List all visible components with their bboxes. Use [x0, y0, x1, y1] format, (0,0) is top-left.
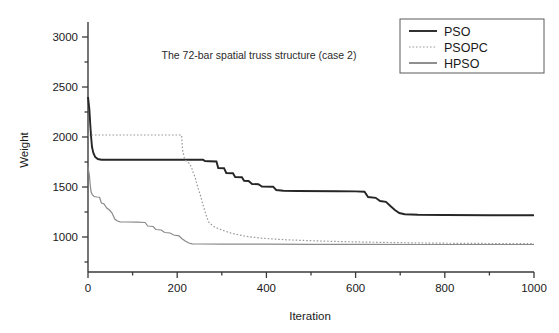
chart-figure: 1000150020002500300002004006008001000 Th…	[0, 0, 559, 333]
y-axis-title: Weight	[18, 131, 30, 167]
legend: PSO PSOPC HPSO	[400, 19, 544, 73]
y-tick-label: 2000	[52, 131, 78, 143]
legend-label-hpso: HPSO	[444, 57, 480, 71]
y-tick-label: 3000	[52, 31, 78, 43]
y-tick-label: 2500	[52, 81, 78, 93]
x-tick-label: 200	[168, 282, 187, 294]
legend-label-pso: PSO	[444, 25, 471, 39]
y-tick-label: 1500	[52, 181, 78, 193]
x-tick-label: 800	[435, 282, 454, 294]
line-chart: 1000150020002500300002004006008001000 Th…	[0, 0, 559, 333]
y-tick-label: 1000	[52, 231, 78, 243]
x-tick-label: 0	[85, 282, 91, 294]
legend-label-psopc: PSOPC	[444, 41, 488, 55]
x-tick-label: 400	[257, 282, 276, 294]
x-tick-label: 600	[346, 282, 365, 294]
chart-title: The 72-bar spatial truss structure (case…	[162, 49, 357, 61]
x-tick-label: 1000	[521, 282, 547, 294]
x-axis-title: Iteration	[289, 310, 331, 322]
